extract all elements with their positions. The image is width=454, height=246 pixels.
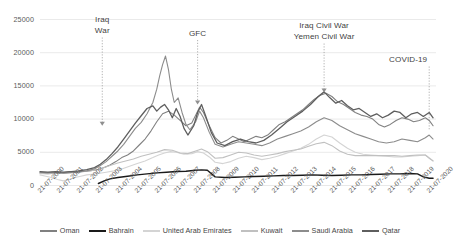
- legend-item-oman[interactable]: Oman: [40, 226, 80, 235]
- legend-swatch-icon: [40, 230, 57, 232]
- annotation-text: GFC: [138, 28, 258, 40]
- legend-swatch-icon: [362, 230, 379, 232]
- legend-label: Bahrain: [109, 226, 134, 235]
- y-axis-tick-label: 10000: [2, 114, 34, 123]
- legend-label: Qatar: [382, 226, 400, 235]
- legend-item-kuwait[interactable]: Kuwait: [241, 226, 283, 235]
- annotation-text: Iraq: [42, 14, 162, 26]
- legend-label: Oman: [60, 226, 80, 235]
- annotation-arrowhead: [100, 122, 105, 126]
- y-axis-tick-label: 15000: [2, 81, 34, 90]
- annotation-text: COVID-19: [337, 54, 427, 66]
- annotation-text: Yemen Civil War: [264, 31, 384, 43]
- legend-item-bahrain[interactable]: Bahrain: [89, 226, 134, 235]
- y-axis-tick-label: 25000: [2, 15, 34, 24]
- y-axis-tick-label: 5000: [2, 147, 34, 156]
- legend-swatch-icon: [89, 230, 106, 232]
- gridlines: [40, 20, 436, 186]
- legend-swatch-icon: [241, 230, 258, 232]
- legend-item-united-arab-emirates[interactable]: United Arab Emirates: [143, 226, 232, 235]
- series-line-oman: [40, 93, 433, 173]
- legend-item-qatar[interactable]: Qatar: [362, 226, 400, 235]
- legend-swatch-icon: [292, 230, 309, 232]
- annotation-arrowhead: [195, 100, 200, 104]
- chart-legend: OmanBahrainUnited Arab EmiratesKuwaitSau…: [0, 226, 440, 235]
- annotation-iraq-civil-war: Iraq Civil WarYemen Civil War: [264, 20, 384, 43]
- legend-swatch-icon: [143, 230, 160, 232]
- y-axis-tick-label: 20000: [2, 48, 34, 57]
- annotation-gfc: GFC: [138, 28, 258, 40]
- y-axis-tick-label: 0: [2, 181, 34, 190]
- legend-label: Saudi Arabia: [312, 226, 353, 235]
- annotation-arrowhead: [322, 89, 327, 93]
- legend-item-saudi-arabia[interactable]: Saudi Arabia: [292, 226, 353, 235]
- series-line-qatar: [40, 92, 433, 172]
- annotation-text: Iraq Civil War: [264, 20, 384, 32]
- legend-label: United Arab Emirates: [163, 226, 232, 235]
- legend-label: Kuwait: [261, 226, 283, 235]
- annotation-covid-19: COVID-19: [337, 54, 427, 66]
